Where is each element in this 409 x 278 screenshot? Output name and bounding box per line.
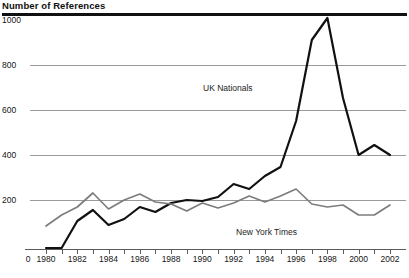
- x-tick-1993: [249, 250, 250, 254]
- chart-figure: Number of References 1000 800 600 400 20…: [0, 0, 409, 278]
- x-tick-2001: [374, 250, 375, 254]
- x-tick-label-1998: 1998: [318, 255, 337, 264]
- x-tick-label-1980: 1980: [37, 255, 56, 264]
- x-tick-label-1994: 1994: [255, 255, 274, 264]
- x-tick-1987: [155, 250, 156, 254]
- x-tick-label-1984: 1984: [99, 255, 118, 264]
- x-tick-1991: [218, 250, 219, 254]
- series-line-new-york-times: [46, 189, 390, 226]
- x-tick-label-1988: 1988: [162, 255, 181, 264]
- x-axis-line: [25, 249, 406, 250]
- chart-lines: [0, 0, 409, 278]
- series-label-uk-nationals: UK Nationals: [203, 84, 253, 93]
- x-tick-label-2000: 2000: [349, 255, 368, 264]
- series-label-new-york-times: New York Times: [236, 228, 297, 237]
- x-tick-1983: [93, 250, 94, 254]
- x-tick-1999: [343, 250, 344, 254]
- x-tick-1995: [281, 250, 282, 254]
- x-tick-label-1992: 1992: [224, 255, 243, 264]
- x-tick-label-2002: 2002: [381, 255, 400, 264]
- x-tick-1989: [187, 250, 188, 254]
- x-tick-label-1996: 1996: [287, 255, 306, 264]
- x-tick-label-1986: 1986: [130, 255, 149, 264]
- x-tick-label-1990: 1990: [193, 255, 212, 264]
- series-line-uk-nationals: [46, 18, 390, 248]
- x-tick-1997: [312, 250, 313, 254]
- x-tick-label-origin: 0: [26, 255, 31, 264]
- x-tick-label-1982: 1982: [68, 255, 87, 264]
- x-tick-1981: [62, 250, 63, 254]
- x-tick-1985: [124, 250, 125, 254]
